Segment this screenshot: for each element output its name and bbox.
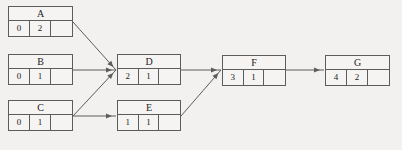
node-f-cell-0: 3 (223, 70, 244, 85)
node-d-label: D (118, 55, 180, 69)
edge-arrowhead (314, 67, 320, 72)
node-b-cell-0: 0 (9, 69, 30, 84)
node-b-label: B (9, 55, 72, 69)
node-f-label: F (223, 56, 285, 70)
edge-d-to-f (181, 67, 221, 72)
edge-f-to-g (286, 67, 324, 72)
edge-e-to-f (181, 70, 221, 116)
edge-arrowhead (106, 67, 112, 72)
edge-line (73, 70, 116, 116)
node-f-values: 31 (223, 70, 285, 85)
node-f[interactable]: F31 (222, 55, 286, 86)
node-a-values: 02 (9, 21, 72, 36)
edge-c-to-d (73, 70, 116, 116)
node-b-cell-1: 1 (30, 69, 51, 84)
node-d-cell-1: 1 (139, 69, 160, 84)
node-a[interactable]: A02 (8, 6, 73, 37)
node-e-cell-1: 1 (139, 115, 160, 130)
node-g-cell-1: 2 (347, 70, 368, 85)
edge-arrowhead (107, 73, 113, 79)
node-c-cell-2 (51, 115, 72, 130)
node-b-cell-2 (51, 69, 72, 84)
node-c-values: 01 (9, 115, 72, 130)
edge-arrowhead (211, 67, 217, 72)
edge-c-to-e (73, 113, 116, 118)
node-e-cell-2 (159, 115, 180, 130)
node-g-cell-0: 4 (326, 70, 347, 85)
node-c-cell-0: 0 (9, 115, 30, 130)
node-a-cell-1: 2 (30, 21, 51, 36)
node-c[interactable]: C01 (8, 100, 73, 131)
node-f-cell-2 (264, 70, 285, 85)
node-a-cell-0: 0 (9, 21, 30, 36)
node-e-label: E (118, 101, 180, 115)
node-d[interactable]: D21 (117, 54, 181, 85)
node-c-cell-1: 1 (30, 115, 51, 130)
edge-line (73, 22, 116, 70)
node-c-label: C (9, 101, 72, 115)
node-g-cell-2 (368, 70, 389, 85)
node-a-label: A (9, 7, 72, 21)
node-e-cell-0: 1 (118, 115, 139, 130)
node-a-cell-2 (51, 21, 72, 36)
node-d-values: 21 (118, 69, 180, 84)
edge-arrowhead (107, 61, 113, 67)
node-e[interactable]: E11 (117, 100, 181, 131)
node-g-values: 42 (326, 70, 389, 85)
node-b-values: 01 (9, 69, 72, 84)
edge-arrowhead (106, 113, 112, 118)
edge-line (181, 70, 221, 116)
edge-a-to-d (73, 22, 116, 70)
edge-b-to-d (73, 67, 116, 72)
node-g-label: G (326, 56, 389, 70)
node-b[interactable]: B01 (8, 54, 73, 85)
activity-network-diagram: A02B01C01D21E11F31G42 (0, 0, 402, 150)
node-d-cell-2 (159, 69, 180, 84)
node-g[interactable]: G42 (325, 55, 390, 86)
edge-arrowhead (212, 73, 218, 79)
node-f-cell-1: 1 (244, 70, 265, 85)
node-e-values: 11 (118, 115, 180, 130)
node-d-cell-0: 2 (118, 69, 139, 84)
